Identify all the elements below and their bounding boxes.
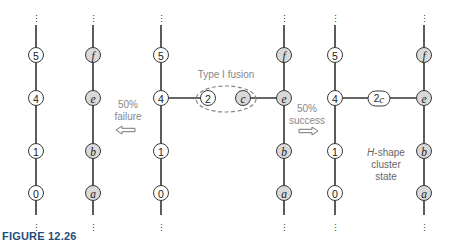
ellipsis-top: ⋮: [32, 14, 41, 24]
svg-text:e: e: [90, 93, 95, 105]
svg-text:a: a: [421, 188, 427, 200]
svg-text:1: 1: [33, 146, 39, 158]
ellipsis-bottom: ⋮: [420, 223, 429, 233]
failure-percent: 50%: [118, 99, 138, 110]
qubit-node: 1: [29, 144, 44, 159]
qubit-node: 5: [154, 48, 169, 63]
qubit-node: 4: [154, 91, 169, 106]
qubit-node: 2: [201, 91, 216, 106]
svg-text:5: 5: [332, 50, 338, 62]
bridge-node: 2c: [368, 91, 390, 106]
success-transition: 50% success: [289, 103, 325, 135]
svg-text:2c: 2c: [374, 93, 385, 105]
ellipsis-top: ⋮: [280, 14, 289, 24]
svg-text:4: 4: [332, 93, 338, 105]
panel-before-fusion: ⋮ ⋮ ⋮ ⋮ 5 4 1 0 f e b a 2 c Type I fusio…: [154, 14, 292, 233]
qubit-node: 0: [29, 186, 44, 201]
ellipsis-bottom: ⋮: [280, 223, 289, 233]
failure-label: failure: [114, 111, 142, 122]
svg-text:5: 5: [33, 50, 39, 62]
svg-text:e: e: [421, 93, 426, 105]
svg-text:a: a: [90, 188, 96, 200]
success-label: success: [289, 115, 325, 126]
qubit-node: 4: [328, 91, 343, 106]
qubit-node: 4: [29, 91, 44, 106]
qubit-node: b: [86, 144, 101, 159]
svg-text:e: e: [281, 93, 286, 105]
svg-text:0: 0: [332, 188, 338, 200]
qubit-node: 0: [154, 186, 169, 201]
figure-caption: FIGURE 12.26: [2, 230, 77, 242]
qubit-node: 1: [154, 144, 169, 159]
qubit-node: f: [417, 48, 432, 63]
ellipsis-bottom: ⋮: [89, 223, 98, 233]
qubit-node: a: [86, 186, 101, 201]
arrow-left-icon: [116, 126, 135, 134]
svg-text:5: 5: [158, 50, 164, 62]
ellipsis-top: ⋮: [420, 14, 429, 24]
qubit-node: e: [277, 91, 292, 106]
svg-text:H-shape: H-shape: [367, 147, 405, 158]
panel-after-failure: ⋮ ⋮ ⋮ ⋮ 5 4 1 0 f e b a: [29, 14, 101, 233]
arrow-right-icon: [299, 127, 318, 135]
qubit-node: 5: [328, 48, 343, 63]
qubit-node: f: [86, 48, 101, 63]
ellipsis-bottom: ⋮: [157, 223, 166, 233]
fusion-label: Type I fusion: [198, 69, 255, 80]
qubit-node: f: [277, 48, 292, 63]
svg-text:4: 4: [158, 93, 164, 105]
qubit-node: a: [417, 186, 432, 201]
svg-text:0: 0: [33, 188, 39, 200]
svg-text:2: 2: [205, 93, 211, 105]
svg-text:b: b: [90, 146, 96, 158]
ellipsis-top: ⋮: [331, 14, 340, 24]
qubit-node: 5: [29, 48, 44, 63]
h-shape-label: H-shape cluster state: [367, 147, 405, 182]
qubit-node: 0: [328, 186, 343, 201]
svg-text:b: b: [421, 146, 427, 158]
qubit-node: a: [277, 186, 292, 201]
svg-text:a: a: [281, 188, 287, 200]
svg-text:b: b: [281, 146, 287, 158]
success-percent: 50%: [297, 103, 317, 114]
qubit-node: 1: [328, 144, 343, 159]
ellipsis-top: ⋮: [157, 14, 166, 24]
svg-text:c: c: [240, 93, 245, 105]
cluster-state-diagram: ⋮ ⋮ ⋮ ⋮ 5 4 1 0 f e b a 50% failure ⋮ ⋮ …: [0, 0, 455, 246]
svg-text:1: 1: [158, 146, 164, 158]
qubit-node: e: [417, 91, 432, 106]
svg-text:cluster: cluster: [371, 159, 401, 170]
svg-text:0: 0: [158, 188, 164, 200]
qubit-node: b: [277, 144, 292, 159]
qubit-node: e: [86, 91, 101, 106]
svg-text:1: 1: [332, 146, 338, 158]
qubit-node: c: [236, 91, 251, 106]
svg-text:4: 4: [33, 93, 39, 105]
qubit-node: b: [417, 144, 432, 159]
ellipsis-top: ⋮: [89, 14, 98, 24]
failure-transition: 50% failure: [114, 99, 142, 134]
panel-after-success: ⋮ ⋮ ⋮ ⋮ 5 4 1 0 f e b a 2c H-shape clust…: [328, 14, 432, 233]
ellipsis-bottom: ⋮: [331, 223, 340, 233]
svg-text:state: state: [375, 171, 397, 182]
